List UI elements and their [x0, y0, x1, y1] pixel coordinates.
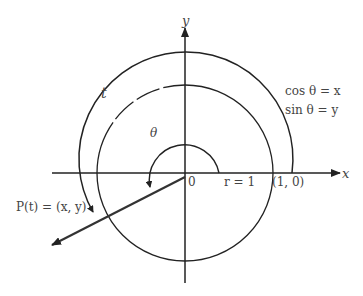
t-label: t: [101, 85, 107, 101]
theta-label: θ: [150, 126, 158, 140]
y-axis-label: y: [181, 13, 190, 28]
radius-label: r = 1: [224, 175, 255, 189]
unit-circle-diagram: y x 0 t θ cos θ = x sin θ = y r = 1 (1, …: [0, 0, 363, 296]
sin-equation: sin θ = y: [285, 103, 338, 117]
cos-equation: cos θ = x: [285, 84, 341, 98]
arc-theta: [149, 145, 219, 187]
point-one-zero-label: (1, 0): [272, 175, 304, 189]
arc-t: [79, 52, 293, 212]
x-axis-label: x: [342, 166, 350, 181]
point-p-label: P(t) = (x, y): [16, 200, 86, 214]
origin-label: 0: [188, 175, 196, 189]
